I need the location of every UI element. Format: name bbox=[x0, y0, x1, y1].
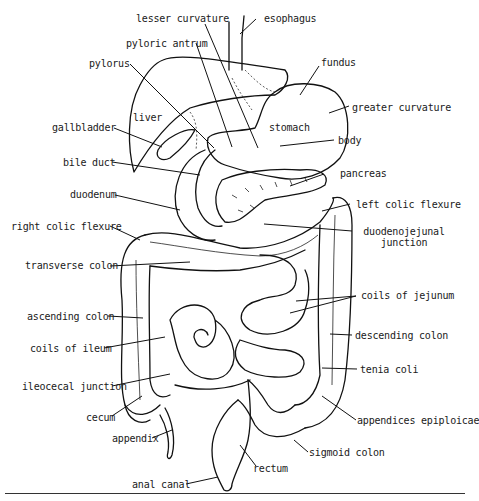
label-fundus: fundus bbox=[321, 57, 356, 68]
label-coils-of-jejunum: coils of jejunum bbox=[361, 290, 454, 301]
bottom-rule bbox=[5, 493, 465, 494]
label-duodenojejunal-line2: junction bbox=[381, 237, 428, 248]
label-lesser-curvature: lesser curvature bbox=[136, 13, 229, 24]
label-ileocecal-junction: ileocecal junction bbox=[22, 381, 127, 392]
label-esophagus: esophagus bbox=[264, 13, 316, 24]
label-appendix: appendix bbox=[112, 433, 159, 444]
gallbladder-shape bbox=[157, 130, 195, 160]
label-pylorus: pylorus bbox=[89, 58, 130, 69]
label-duodenojejunal-junction: duodenojejunaljunction bbox=[356, 226, 452, 248]
label-gallbladder: gallbladder bbox=[52, 122, 116, 133]
ascending-colon-shape bbox=[121, 235, 170, 414]
label-duodenum: duodenum bbox=[70, 189, 117, 200]
jejunum-coils bbox=[241, 255, 308, 334]
label-left-colic-flexure: left colic flexure bbox=[356, 199, 461, 210]
rectum-shape bbox=[212, 380, 250, 491]
duodenum-shape bbox=[175, 150, 222, 240]
label-body: body bbox=[338, 135, 361, 146]
label-greater-curvature: greater curvature bbox=[352, 102, 451, 113]
label-anal-canal: anal canal bbox=[132, 479, 190, 490]
label-rectum: rectum bbox=[253, 463, 288, 474]
label-descending-colon: descending colon bbox=[355, 330, 448, 341]
label-coils-of-ileum: coils of ileum bbox=[30, 343, 112, 354]
label-appendices-epiploicae: appendices epiploicae bbox=[357, 415, 479, 426]
ileum-coils bbox=[170, 305, 234, 379]
label-ascending-colon: ascending colon bbox=[27, 311, 114, 322]
label-cecum: cecum bbox=[86, 412, 115, 423]
label-pancreas: pancreas bbox=[340, 168, 387, 179]
label-stomach: stomach bbox=[269, 122, 310, 133]
label-pyloric-antrum: pyloric antrum bbox=[126, 38, 208, 49]
label-tenia-coli: tenia coli bbox=[360, 364, 418, 375]
label-transverse-colon: transverse colon bbox=[25, 260, 118, 271]
label-duodenojejunal-line1: duodenojejunal bbox=[363, 226, 445, 237]
label-sigmoid-colon: sigmoid colon bbox=[309, 447, 385, 458]
pancreas-shape bbox=[216, 169, 326, 222]
label-right-colic-flexure: right colic flexure bbox=[11, 221, 122, 232]
sigmoid-colon-shape bbox=[238, 380, 305, 437]
label-bile-duct: bile duct bbox=[63, 157, 115, 168]
label-liver: liver bbox=[133, 112, 162, 123]
